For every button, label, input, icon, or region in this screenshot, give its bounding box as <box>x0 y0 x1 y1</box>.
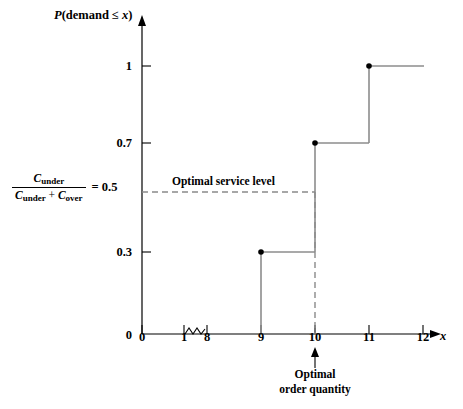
y-axis <box>138 15 146 334</box>
formula-denominator-subscript-2: over <box>66 194 83 204</box>
x-tick-label-9: 9 <box>249 331 273 344</box>
formula-denominator: Cunder + Cover <box>12 188 86 203</box>
optimal-order-quantity-label-line2: order quantity <box>268 384 362 396</box>
formula-fraction: Cunder Cunder + Cover <box>12 172 86 204</box>
x-tick-label-10: 10 <box>303 331 327 344</box>
formula-numerator-subscript: under <box>41 176 64 186</box>
formula-numerator: Cunder <box>12 172 86 188</box>
cdf-step-chart: P(demand ≤ x) 1 0.7 0.3 Cunder Cunder + … <box>0 0 463 409</box>
y-tick-label-1: 1 <box>92 60 132 73</box>
formula-numerator-var: C <box>33 172 41 184</box>
formula-plus: + <box>46 189 58 201</box>
x-tick-label-11: 11 <box>357 331 381 344</box>
formula-equals-value: = 0.5 <box>92 180 118 195</box>
formula-denominator-subscript-1: under <box>23 194 46 204</box>
optimal-service-level-formula: Cunder Cunder + Cover = 0.5 <box>12 172 117 204</box>
optimal-order-quantity-label-line1: Optimal <box>282 369 348 381</box>
origin-label-0: 0 <box>92 329 132 342</box>
data-point-10 <box>312 140 318 146</box>
x-tick-label-8: 8 <box>195 331 219 344</box>
y-axis-ticks <box>142 66 151 252</box>
step-function-line <box>261 66 424 334</box>
optimal-order-quantity-arrow <box>311 347 319 368</box>
chart-canvas <box>0 0 463 409</box>
x-tick-label-0: 0 <box>130 331 154 344</box>
formula-denominator-var-2: C <box>58 189 66 201</box>
y-tick-label-0-7: 0.7 <box>92 137 132 150</box>
data-point-11 <box>366 63 372 69</box>
x-tick-label-1: 1 <box>172 331 196 344</box>
y-tick-label-0-3: 0.3 <box>92 246 132 259</box>
data-point-9 <box>258 249 264 255</box>
formula-denominator-var-1: C <box>15 189 23 201</box>
x-axis-title: x <box>440 330 446 343</box>
y-axis-title-text: demand ≤ <box>66 8 122 22</box>
optimal-service-level-label: Optimal service level <box>172 176 275 188</box>
y-axis-title-close: ) <box>128 8 132 22</box>
x-tick-label-12: 12 <box>411 331 435 344</box>
y-axis-title: P(demand ≤ x) <box>54 9 132 22</box>
y-axis-title-prefix: P <box>54 8 62 22</box>
